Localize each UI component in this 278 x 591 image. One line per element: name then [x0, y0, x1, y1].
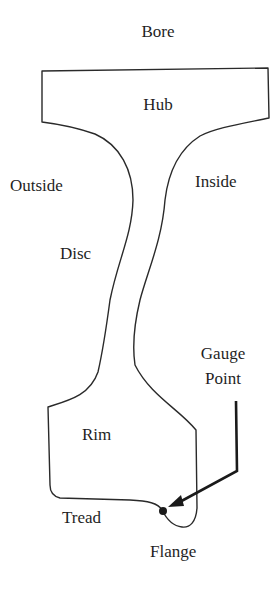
label-inside: Inside — [195, 172, 237, 191]
gauge-point-dot — [159, 507, 167, 515]
label-flange: Flange — [150, 542, 196, 561]
gauge-point-leader-line — [176, 401, 237, 504]
wheel-section-drawing — [0, 0, 278, 591]
arrowhead-icon — [168, 495, 184, 507]
label-tread: Tread — [62, 508, 101, 527]
label-bore: Bore — [128, 22, 188, 41]
wheel-outline — [42, 68, 269, 527]
label-hub: Hub — [128, 95, 188, 114]
label-rim: Rim — [82, 425, 111, 444]
label-outside: Outside — [10, 176, 63, 195]
label-gauge-point-line2: Point — [188, 369, 258, 388]
label-gauge-point-line1: Gauge — [188, 344, 258, 363]
label-disc: Disc — [60, 244, 91, 263]
